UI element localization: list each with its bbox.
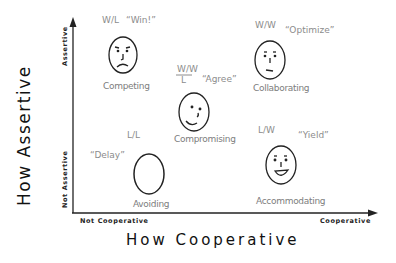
competing-quote: “Win!”: [126, 15, 156, 25]
compromising-quote: “Agree”: [202, 74, 237, 84]
y-axis-bottom-label: Not Assertive: [61, 151, 69, 208]
collaborating-outcome: W/W: [255, 20, 276, 30]
collaborating-label: Collaborating: [253, 83, 309, 93]
competing-label: Competing: [103, 81, 150, 91]
compromising-label: Compromising: [174, 134, 236, 144]
avoiding-outcome: L/L: [127, 130, 140, 140]
x-axis-arrow-icon: [368, 210, 378, 217]
y-axis-arrow-icon: [70, 17, 77, 27]
y-axis-top-label: Assertive: [61, 26, 69, 66]
x-axis-title: How Cooperative: [126, 231, 300, 249]
accommodating-outcome: L/W: [258, 125, 275, 135]
collaborating-face-icon: [255, 41, 285, 79]
compromising-outcome-bottom: L: [181, 75, 186, 85]
x-axis-left-label: Not Cooperative: [80, 217, 149, 225]
y-axis: [70, 17, 77, 213]
avoiding-quote: “Delay”: [90, 150, 125, 160]
x-axis: [72, 210, 378, 217]
accommodating-face-icon: [266, 146, 296, 184]
competing-face-icon: [109, 37, 137, 73]
competing-outcome: W/L: [102, 15, 119, 25]
y-axis-title: How Assertive: [14, 65, 34, 206]
avoiding-face-icon: [134, 154, 164, 194]
avoiding-label: Avoiding: [133, 199, 169, 209]
compromising-outcome-top: W/W: [177, 64, 198, 74]
compromising-face-icon: [179, 93, 209, 131]
accommodating-quote: “Yield”: [298, 130, 329, 140]
accommodating-label: Accommodating: [256, 196, 325, 206]
collaborating-quote: “Optimize”: [285, 25, 334, 35]
x-axis-right-label: Cooperative: [320, 217, 371, 225]
